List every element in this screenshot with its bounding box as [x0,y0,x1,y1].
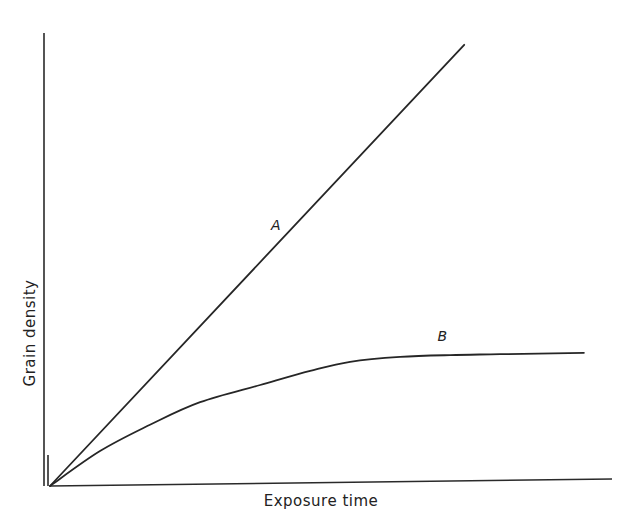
series-b-label: B [437,328,447,344]
series-a-line [50,45,464,486]
x-axis [50,479,612,486]
y-axis-title: Grain density [21,280,39,387]
x-axis-title: Exposure time [264,492,379,510]
series-a-label: A [270,217,281,233]
chart-canvas: AB Exposure time Grain density [0,0,633,523]
series-b-line [50,353,584,486]
series-layer: AB [50,45,584,486]
